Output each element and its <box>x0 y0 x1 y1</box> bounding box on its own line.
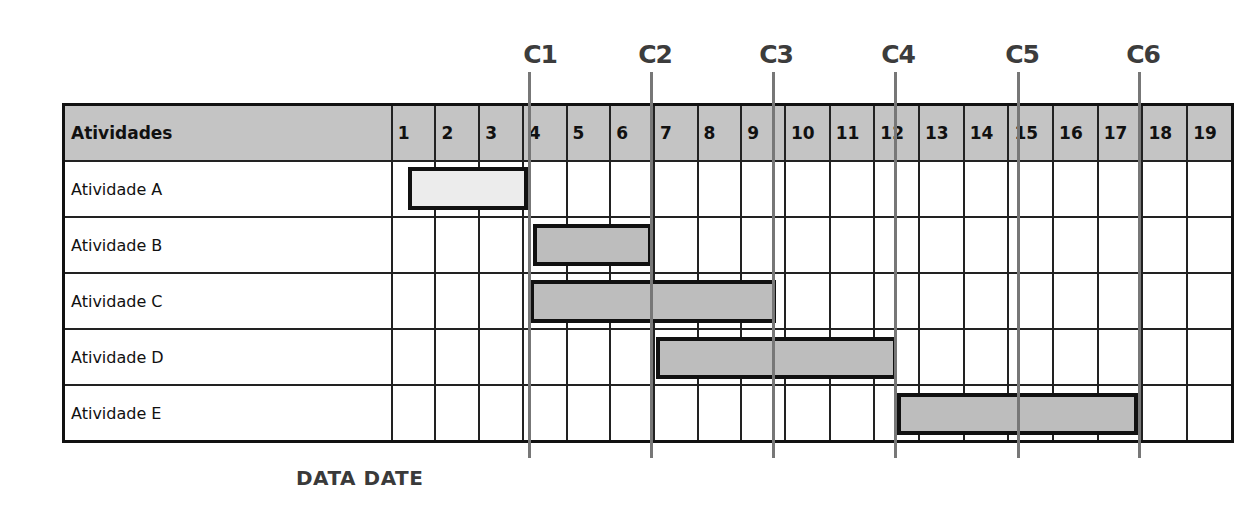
day-header: 17 <box>1098 105 1143 162</box>
milestone-label-c2: C2 <box>638 40 672 69</box>
data-date-label: DATA DATE <box>296 466 423 490</box>
day-header: 6 <box>610 105 654 162</box>
milestone-label-c4: C4 <box>881 40 915 69</box>
milestone-line-c4 <box>894 72 897 458</box>
day-header: 9 <box>741 105 785 162</box>
activity-label: Atividade C <box>64 273 392 329</box>
activity-label: Atividade E <box>64 385 392 442</box>
header-row: Atividades 1 2 3 4 5 6 7 8 9 10 11 12 13… <box>64 105 1233 162</box>
day-header: 19 <box>1187 105 1232 162</box>
day-header: 15 <box>1008 105 1053 162</box>
activity-bar-c <box>530 280 776 323</box>
gantt-table: Atividades 1 2 3 4 5 6 7 8 9 10 11 12 13… <box>62 103 1234 443</box>
milestone-line-c6 <box>1138 72 1141 458</box>
activity-row-a: Atividade A <box>64 161 1233 217</box>
day-header: 5 <box>567 105 611 162</box>
day-header: 8 <box>698 105 742 162</box>
milestone-label-c6: C6 <box>1126 40 1160 69</box>
day-header: 16 <box>1053 105 1098 162</box>
activity-row-d: Atividade D <box>64 329 1233 385</box>
milestone-label-c3: C3 <box>759 40 793 69</box>
activity-bar-d <box>656 337 897 379</box>
day-header: 11 <box>830 105 875 162</box>
activity-bar-b <box>533 224 652 266</box>
milestone-line-c1 <box>528 72 531 458</box>
day-header: 13 <box>919 105 964 162</box>
column-header-activities: Atividades <box>64 105 392 162</box>
day-header: 1 <box>392 105 436 162</box>
day-header: 2 <box>435 105 479 162</box>
day-header: 10 <box>785 105 830 162</box>
activity-bar-a <box>408 167 528 210</box>
milestone-label-c5: C5 <box>1005 40 1039 69</box>
day-header: 18 <box>1142 105 1187 162</box>
activity-label: Atividade D <box>64 329 392 385</box>
milestone-line-c2 <box>650 72 653 458</box>
day-header: 7 <box>654 105 698 162</box>
day-header: 14 <box>964 105 1009 162</box>
milestone-line-c5 <box>1017 72 1020 458</box>
day-header: 3 <box>479 105 523 162</box>
activity-label: Atividade B <box>64 217 392 273</box>
milestone-label-c1: C1 <box>523 40 557 69</box>
milestone-line-c3 <box>772 72 775 458</box>
activity-label: Atividade A <box>64 161 392 217</box>
